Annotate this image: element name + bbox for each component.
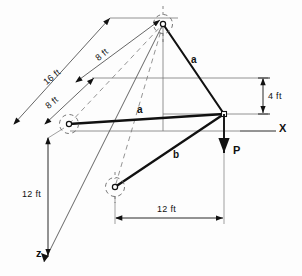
member-a-lower-line [69,114,224,124]
axis-z-label: z [36,248,42,259]
member-a-upper-label: a [191,55,197,65]
dim-12ft-horizontal-label: 12 ft [157,205,176,214]
dim-8ft-upper-group [76,20,160,82]
construction-lines [69,18,276,187]
member-b-line [115,114,224,187]
member-b-label: b [173,150,179,160]
dim-12ft-vertical-group [48,128,64,256]
member-a-lower-label: a [137,105,143,115]
truss-members [69,24,224,187]
support-joints [60,6,227,203]
axis-x-label: X [279,123,286,134]
dim-12ft-vertical-label: 12 ft [22,190,41,199]
member-a-upper-line [163,24,224,114]
dim-4ft-label: 4 ft [268,92,282,101]
node-lower-support [106,172,125,203]
projection-dashed-diagonal [69,24,163,124]
space-truss-diagram: 16 ft 8 ft 8 ft 4 ft 12 ft 12 ft a a b X… [0,0,302,276]
dim-8ft-upper-line [76,20,160,82]
load-p-label: P [233,145,240,156]
truss-figure-svg [0,0,302,276]
